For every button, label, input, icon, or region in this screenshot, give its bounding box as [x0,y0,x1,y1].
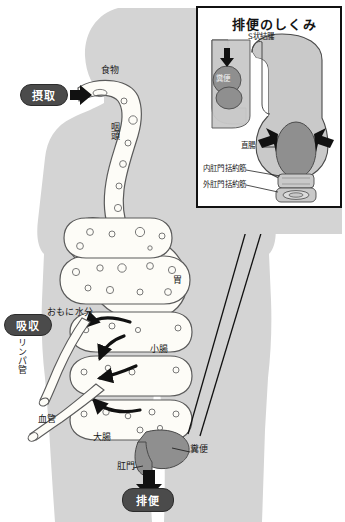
label-blood-vessel: 血管 [38,415,56,424]
figure-canvas: 排便のしくみ S状結腸 糞便 直腸 内肛門括約筋 外肛門括約筋 食物 咽頭 胃 … [0,0,345,522]
label-small-intestine: 小腸 [150,345,168,354]
badge-intake: 摂取 [20,84,68,106]
label-external-anal-sphincter: 外肛門括約筋 [203,181,246,189]
label-anus: 肛門 [117,462,135,471]
label-lymph-vessel: リンパ管 [17,338,26,374]
inset-bottom-mask [196,208,342,234]
label-mainly-water: おもに水分 [47,308,93,317]
label-internal-anal-sphincter: 内肛門括約筋 [203,165,246,173]
inset-title: 排便のしくみ [232,14,317,33]
label-food: 食物 [101,66,119,75]
label-rectum: 直腸 [241,142,255,150]
badge-absorption: 吸収 [4,314,52,336]
label-feces: 糞便 [190,445,208,454]
badge-defecation: 排便 [122,488,174,512]
label-stomach: 胃 [173,276,182,285]
label-sigmoid-colon: S状結腸 [248,33,275,41]
label-pharynx: 咽頭 [110,122,119,140]
label-large-intestine: 大腸 [93,433,111,442]
label-feces-inset: 糞便 [216,75,230,83]
